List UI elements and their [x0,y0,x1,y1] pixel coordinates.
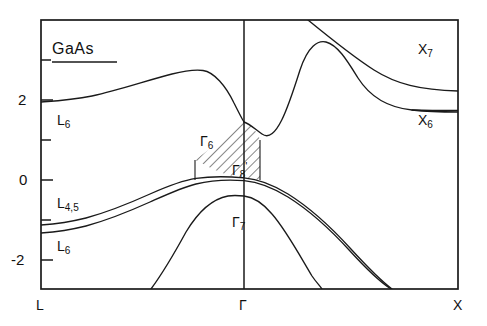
band-label-Gamma7: Γ7 [232,215,245,232]
band-label-sub: 4,5 [65,202,79,213]
page-title: GaAs [52,41,94,57]
band-label-X7: X7 [418,42,433,59]
band-label-X6: X6 [418,113,433,130]
curve-L6-valence [41,180,391,289]
band-label-base: L [57,195,65,211]
band-label-sub: 6 [65,119,71,130]
curve-X6-tail [412,110,458,111]
band-label-prime: ' [245,160,247,172]
band-label-sub: 6 [208,140,214,151]
curve-X7-upper [308,20,458,91]
band-label-L6-valence: L6 [57,239,70,256]
band-label-sub: 6 [65,245,71,256]
y-tick-label-2: 2 [18,92,26,107]
band-label-base: Γ [232,162,240,178]
band-label-L6-conduction: L6 [57,113,70,130]
band-gap-hatched-region [195,122,260,180]
band-label-base: X [418,112,427,128]
band-label-base: L [57,238,65,254]
x-tick-label-L: L [36,298,44,312]
band-label-sub: 7 [240,221,246,232]
curve-L45-valence [41,177,392,289]
band-label-Gamma6: Γ6 [200,134,213,151]
y-tick-label-0: 0 [19,172,27,187]
x-tick-label-X: X [453,298,462,312]
curve-Gamma7-splitoff [151,195,322,289]
band-label-base: X [418,41,427,57]
y-axis-ticks [41,60,53,260]
band-label-sub: 7 [427,48,433,59]
band-label-L45-valence: L4,5 [57,196,79,213]
band-label-Gamma8: Γ8' [232,161,247,180]
band-label-sub: 6 [427,119,433,130]
band-structure-figure: GaAs 2 0 -2 L Γ X L6 L4,5 L6 Γ6 Γ8' Γ7 X… [0,0,487,326]
curve-L6-conduction [41,70,244,122]
y-tick-label-minus2: -2 [11,252,24,267]
x-tick-label-gamma: Γ [239,298,247,312]
band-label-base: L [57,112,65,128]
band-label-base: Γ [232,214,240,230]
band-label-base: Γ [200,133,208,149]
